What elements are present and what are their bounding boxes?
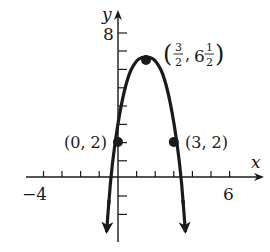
- svg-text:3: 3: [175, 41, 182, 54]
- point-0-2: [113, 137, 123, 147]
- parabola-curve: [109, 57, 184, 205]
- point-vertex: [141, 55, 151, 65]
- curve-left-arrow: [107, 200, 109, 232]
- svg-text:,: ,: [185, 45, 190, 64]
- svg-text:2: 2: [175, 56, 182, 69]
- y-axis: [118, 12, 127, 242]
- svg-text:): ): [215, 40, 224, 68]
- x-tick-label-max: 6: [223, 184, 234, 204]
- x-axis-label: x: [251, 152, 261, 172]
- x-tick-label-min: −4: [22, 184, 47, 204]
- x-axis-ticks: [44, 171, 230, 177]
- vertex-label: ( 3 2 , 6 1 2 ): [163, 40, 224, 69]
- svg-text:6: 6: [194, 46, 205, 66]
- svg-text:1: 1: [206, 41, 213, 54]
- point-label-right: (3, 2): [185, 133, 228, 152]
- point-3-2: [169, 137, 179, 147]
- y-tick-label-max: 8: [103, 24, 114, 44]
- curve-right-arrow: [183, 200, 185, 232]
- svg-text:(: (: [163, 40, 172, 68]
- svg-text:2: 2: [206, 56, 213, 69]
- point-label-left: (0, 2): [64, 133, 107, 152]
- x-axis: [26, 171, 262, 177]
- chart-canvas: x y −4 6 8 (0, 2) (3, 2) ( 3 2 , 6 1 2 ): [0, 0, 270, 252]
- y-axis-label: y: [101, 4, 112, 24]
